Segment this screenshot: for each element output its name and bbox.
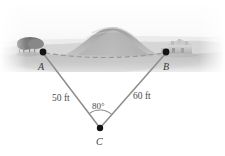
vertex-label-c: C xyxy=(96,137,103,147)
vertex-label-a: A xyxy=(38,62,44,72)
vertex-dot-c xyxy=(97,125,103,131)
triangle-overlay xyxy=(0,0,225,156)
side-length-ac: 50 ft xyxy=(52,94,70,104)
angle-measure-c: 80° xyxy=(92,102,105,111)
side-length-bc: 60 ft xyxy=(133,92,151,102)
segment-a-to-c xyxy=(43,53,100,128)
vertex-dot-b xyxy=(163,49,170,56)
triangle-surveying-diagram: A B C 50 ft 60 ft 80° xyxy=(0,0,225,156)
vertex-dot-a xyxy=(40,49,47,56)
segment-a-to-b-dashed xyxy=(45,53,164,58)
vertex-label-b: B xyxy=(163,62,169,72)
